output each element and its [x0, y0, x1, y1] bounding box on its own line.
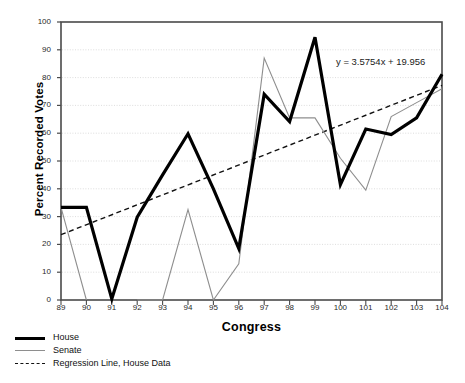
y-axis-title: Percent Recorded Votes	[33, 29, 45, 269]
legend-swatch-senate-icon	[14, 344, 46, 356]
y-tick-label: 100	[25, 17, 51, 26]
x-tick-label: 95	[201, 303, 225, 312]
legend-label-house: House	[53, 331, 79, 343]
x-tick-label: 94	[176, 303, 200, 312]
y-tick-label: 0	[25, 295, 51, 304]
x-tick-label: 98	[278, 303, 302, 312]
legend-label-senate: Senate	[53, 344, 82, 356]
y-tick-label: 50	[25, 156, 51, 165]
x-tick-label: 90	[74, 303, 98, 312]
series-line-house	[61, 37, 442, 299]
y-tick-label: 20	[25, 239, 51, 248]
chart-container: Percent Recorded Votes Congress 01020304…	[0, 0, 465, 383]
x-tick-label: 102	[379, 303, 403, 312]
x-tick-label: 101	[354, 303, 378, 312]
y-tick-label: 80	[25, 73, 51, 82]
legend-item-house: House	[14, 330, 171, 343]
x-tick-label: 89	[49, 303, 73, 312]
x-tick-label: 100	[328, 303, 352, 312]
x-tick-label: 92	[125, 303, 149, 312]
legend-swatch-house-icon	[14, 331, 46, 343]
x-tick-label: 103	[405, 303, 429, 312]
y-tick-label: 30	[25, 212, 51, 221]
x-tick-label: 104	[430, 303, 454, 312]
y-tick-label: 70	[25, 100, 51, 109]
chart-legend: House Senate Regression Line, House Data	[14, 330, 171, 369]
y-tick-label: 60	[25, 128, 51, 137]
y-tick-label: 10	[25, 267, 51, 276]
legend-swatch-regression-icon	[14, 357, 46, 369]
legend-item-senate: Senate	[14, 343, 171, 356]
y-tick-label: 40	[25, 184, 51, 193]
x-tick-label: 91	[100, 303, 124, 312]
x-tick-label: 97	[252, 303, 276, 312]
regression-equation-label: y = 3.5754x + 19.956	[336, 56, 425, 67]
legend-item-regression: Regression Line, House Data	[14, 356, 171, 369]
x-tick-label: 99	[303, 303, 327, 312]
x-tick-label: 96	[227, 303, 251, 312]
y-tick-label: 90	[25, 45, 51, 54]
legend-label-regression: Regression Line, House Data	[53, 357, 171, 369]
x-tick-label: 93	[151, 303, 175, 312]
